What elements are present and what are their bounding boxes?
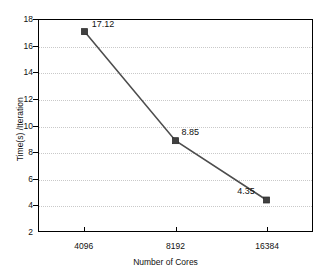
x-tick-mark — [176, 227, 177, 232]
x-axis-title: Number of Cores — [0, 258, 331, 267]
series-line — [85, 32, 267, 200]
y-axis-title: Time(s) /Iteration — [16, 69, 25, 189]
plot-area — [38, 19, 313, 232]
data-point-marker — [173, 138, 179, 144]
y-tick-label: 10 — [24, 121, 33, 130]
x-tick-mark — [267, 227, 268, 232]
data-series-layer — [39, 20, 312, 231]
data-value-label: 4.35 — [237, 187, 255, 196]
data-value-label: 17.12 — [92, 20, 115, 29]
x-axis: 4096819216384 Number of Cores — [0, 232, 331, 278]
y-tick-label: 18 — [24, 15, 33, 24]
data-point-marker — [264, 197, 270, 203]
x-tick-label: 16384 — [255, 242, 279, 251]
y-tick-label: 12 — [24, 95, 33, 104]
y-tick-label: 14 — [24, 68, 33, 77]
x-tick-label: 8192 — [166, 242, 185, 251]
y-tick-label: 16 — [24, 41, 33, 50]
data-point-marker — [82, 29, 88, 35]
data-value-label: 8.85 — [182, 128, 200, 137]
x-tick-mark — [84, 227, 85, 232]
chart-figure: 24681012141618 Time(s) /Iteration 17.128… — [0, 0, 331, 278]
x-tick-label: 4096 — [74, 242, 93, 251]
